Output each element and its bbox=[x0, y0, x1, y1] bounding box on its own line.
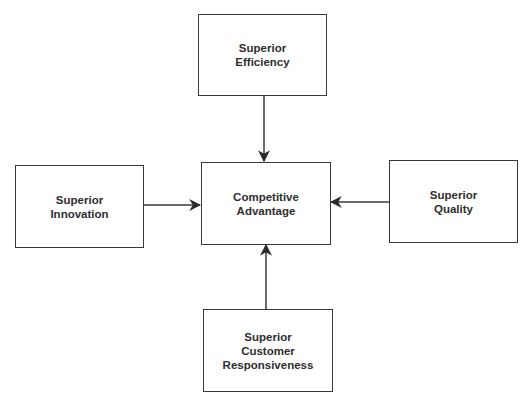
node-label: Superior Customer Responsiveness bbox=[223, 330, 314, 372]
node-competitive-advantage: Competitive Advantage bbox=[201, 162, 331, 245]
node-label: Superior Efficiency bbox=[235, 41, 289, 69]
node-superior-efficiency: Superior Efficiency bbox=[198, 14, 327, 96]
node-label: Competitive Advantage bbox=[233, 190, 299, 218]
node-superior-innovation: Superior Innovation bbox=[15, 165, 144, 248]
node-label: Superior Innovation bbox=[50, 193, 108, 221]
node-superior-quality: Superior Quality bbox=[389, 160, 518, 243]
node-superior-customer-responsiveness: Superior Customer Responsiveness bbox=[203, 309, 333, 392]
node-label: Superior Quality bbox=[430, 188, 477, 216]
